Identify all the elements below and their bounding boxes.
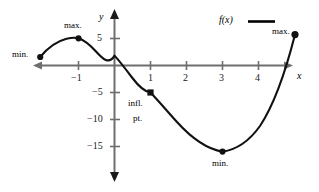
annotation-min-left: min. [12, 50, 28, 59]
function-graph-figure: y x 5 −5 −10 −15 −1 1 2 3 4 min. max. in… [0, 0, 319, 192]
y-tick-label-5: 5 [97, 33, 102, 43]
annotation-max-left: max. [64, 21, 82, 30]
point-marker-max-left [75, 35, 81, 41]
annotation-max-right: max. [272, 27, 290, 36]
point-marker-min-right [219, 149, 225, 155]
y-tick-label-neg10: −10 [87, 114, 103, 124]
point-marker-min-left [37, 54, 43, 60]
x-tick-label-2: 2 [183, 73, 188, 83]
x-tick-label-neg1: −1 [71, 73, 82, 83]
y-tick-label-neg5: −5 [92, 87, 103, 97]
x-axis-left-arrow-icon [33, 62, 42, 70]
point-marker-max-right [291, 31, 298, 38]
y-axis-up-arrow-icon [110, 9, 119, 19]
annotation-min-right: min. [212, 159, 228, 168]
point-marker-inflection [147, 89, 153, 95]
x-tick-label-3: 3 [219, 73, 224, 83]
x-tick-label-4: 4 [255, 73, 260, 83]
annotation-inflection-line2: pt. [133, 114, 142, 123]
annotation-inflection-line1: infl. [128, 99, 143, 108]
x-tick-label-1: 1 [148, 73, 153, 83]
y-tick-label-neg15: −15 [87, 141, 103, 151]
x-axis-label: x [297, 71, 301, 81]
legend-label-fx: f(x) [219, 15, 233, 25]
y-axis-down-arrow-icon [110, 172, 119, 182]
y-axis-label: y [99, 12, 103, 22]
function-curve-fx [40, 35, 295, 152]
